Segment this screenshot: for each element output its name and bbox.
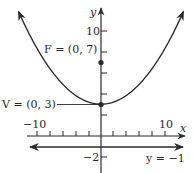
vertex-label: V = (0, 3) [1,98,56,111]
y-axis-ticks [101,31,107,157]
x-tick-label-neg10: −10 [23,118,46,131]
focus-point [98,60,103,65]
y-axis-label: y [89,6,97,19]
focus-label: F = (0, 7) [44,43,97,56]
y-tick-label-neg2: −2 [83,151,99,164]
x-tick-label-10: 10 [159,118,173,131]
parabola-diagram: y x 10 −2 −10 10 F = (0, 7) V = (0, 3) y… [0,0,193,173]
x-axis-label: x [180,122,187,135]
directrix-label: y = −1 [145,152,185,165]
y-tick-label-10: 10 [86,25,100,38]
